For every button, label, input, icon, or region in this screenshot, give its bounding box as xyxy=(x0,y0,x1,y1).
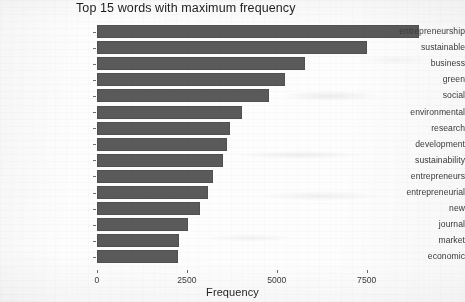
bar-fill xyxy=(97,73,285,86)
y-tick-label-economic: economic xyxy=(375,251,465,261)
bar-development xyxy=(97,138,227,151)
y-tick-mark xyxy=(93,209,96,210)
bar-economic xyxy=(97,250,178,263)
y-tick-label-entrepreneurship: entrepreneurship xyxy=(375,26,465,36)
y-tick-label-sustainable: sustainable xyxy=(375,42,465,52)
y-tick-mark xyxy=(93,64,96,65)
y-tick-mark xyxy=(93,128,96,129)
y-tick-label-development: development xyxy=(375,139,465,149)
bar-entrepreneurial xyxy=(97,186,208,199)
bar-fill xyxy=(97,57,305,70)
x-tick-label-2500: 2500 xyxy=(177,275,196,285)
y-tick-label-sustainability: sustainability xyxy=(375,155,465,165)
y-tick-label-research: research xyxy=(375,123,465,133)
y-tick-label-entrepreneurial: entrepreneurial xyxy=(375,187,465,197)
y-tick-label-journal: journal xyxy=(375,219,465,229)
y-tick-label-entrepreneurs: entrepreneurs xyxy=(375,171,465,181)
y-tick-mark xyxy=(93,160,96,161)
bar-entrepreneurs xyxy=(97,170,213,183)
y-tick-label-environmental: environmental xyxy=(375,107,465,117)
y-tick-mark xyxy=(93,241,96,242)
x-tick-mark xyxy=(277,270,278,273)
y-tick-label-business: business xyxy=(375,58,465,68)
bar-green xyxy=(97,73,285,86)
bar-entrepreneurship xyxy=(97,25,419,38)
y-tick-mark xyxy=(93,112,96,113)
y-tick-mark xyxy=(93,80,96,81)
bar-fill xyxy=(97,25,419,38)
bar-fill xyxy=(97,186,208,199)
x-tick-mark xyxy=(367,270,368,273)
y-tick-label-market: market xyxy=(375,235,465,245)
bar-fill xyxy=(97,138,227,151)
bar-fill xyxy=(97,250,178,263)
x-tick-mark xyxy=(97,270,98,273)
x-tick-mark xyxy=(187,270,188,273)
y-tick-mark xyxy=(93,144,96,145)
bar-fill xyxy=(97,41,367,54)
bar-fill xyxy=(97,218,188,231)
y-tick-mark xyxy=(93,193,96,194)
y-tick-label-green: green xyxy=(375,74,465,84)
bar-journal xyxy=(97,218,188,231)
y-tick-mark xyxy=(93,48,96,49)
bar-fill xyxy=(97,89,269,102)
y-tick-mark xyxy=(93,32,96,33)
y-tick-label-new: new xyxy=(375,203,465,213)
y-tick-mark xyxy=(93,96,96,97)
y-tick-mark xyxy=(93,176,96,177)
bar-social xyxy=(97,89,269,102)
y-tick-mark xyxy=(93,257,96,258)
bar-environmental xyxy=(97,106,242,119)
bar-fill xyxy=(97,154,223,167)
x-tick-label-5000: 5000 xyxy=(267,275,286,285)
bar-fill xyxy=(97,234,179,247)
bar-fill xyxy=(97,170,213,183)
bar-fill xyxy=(97,122,230,135)
bar-fill xyxy=(97,106,242,119)
x-axis-label: Frequency xyxy=(0,286,465,298)
x-tick-label-0: 0 xyxy=(95,275,100,285)
x-tick-label-7500: 7500 xyxy=(357,275,376,285)
bar-research xyxy=(97,122,230,135)
bar-sustainable xyxy=(97,41,367,54)
bar-fill xyxy=(97,202,200,215)
bar-business xyxy=(97,57,305,70)
bar-market xyxy=(97,234,179,247)
bar-chart-figure: Top 15 words with maximum frequency Freq… xyxy=(0,0,465,302)
bar-new xyxy=(97,202,200,215)
chart-title: Top 15 words with maximum frequency xyxy=(76,1,296,15)
y-tick-mark xyxy=(93,225,96,226)
bar-sustainability xyxy=(97,154,223,167)
y-tick-label-social: social xyxy=(375,90,465,100)
